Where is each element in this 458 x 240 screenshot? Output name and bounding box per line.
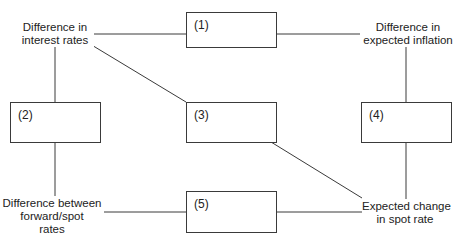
- node-expected-inflation: Difference in expected inflation: [360, 21, 456, 47]
- node-interest-rates-line-2: interest rates: [16, 34, 94, 47]
- node-spot-change-line-1: Expected change: [362, 200, 448, 213]
- node-forward-spot-line-3: rates: [0, 223, 104, 236]
- node-expected-inflation-line-2: expected inflation: [360, 34, 456, 47]
- box-3-label: (3): [194, 108, 209, 122]
- node-spot-change: Expected change in spot rate: [362, 200, 448, 226]
- node-interest-rates: Difference in interest rates: [16, 21, 94, 47]
- node-forward-spot-line-1: Difference between: [0, 197, 104, 210]
- node-interest-rates-line-1: Difference in: [16, 21, 94, 34]
- box-5: (5): [186, 191, 277, 233]
- box-4: (4): [361, 102, 452, 143]
- box-1: (1): [186, 12, 277, 48]
- node-forward-spot: Difference between forward/spot rates: [0, 197, 104, 236]
- node-expected-inflation-line-1: Difference in: [360, 21, 456, 34]
- edge-box3-to-spot: [271, 142, 362, 198]
- box-5-label: (5): [194, 197, 209, 211]
- box-2: (2): [10, 102, 101, 143]
- node-forward-spot-line-2: forward/spot: [0, 210, 104, 223]
- edge-interest-to-box3: [90, 44, 186, 102]
- box-4-label: (4): [369, 108, 384, 122]
- box-3: (3): [186, 102, 277, 143]
- box-2-label: (2): [18, 108, 33, 122]
- node-spot-change-line-2: in spot rate: [362, 213, 448, 226]
- box-1-label: (1): [194, 18, 209, 32]
